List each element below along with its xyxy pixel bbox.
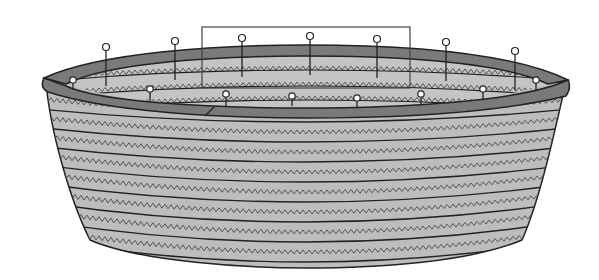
pin-head-icon xyxy=(418,91,424,97)
pin-head-icon xyxy=(70,77,76,83)
basket-figure xyxy=(0,0,599,280)
pin-head-icon xyxy=(289,93,295,99)
pin-head-icon xyxy=(354,95,360,101)
pin-head-icon xyxy=(103,44,110,51)
basket-illustration xyxy=(0,0,599,280)
pin-head-icon xyxy=(512,48,519,55)
pin-head-icon xyxy=(223,91,229,97)
pin-head-icon xyxy=(239,35,246,42)
pin-head-icon xyxy=(374,36,381,43)
pin-head-icon xyxy=(443,39,450,46)
pin-head-icon xyxy=(172,38,179,45)
pin-head-icon xyxy=(533,77,539,83)
pin-head-icon xyxy=(307,33,314,40)
pin-head-icon xyxy=(147,86,153,92)
pin-head-icon xyxy=(480,86,486,92)
